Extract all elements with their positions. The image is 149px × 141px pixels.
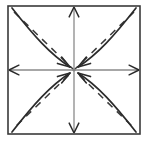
diagram-canvas bbox=[0, 0, 149, 141]
diagram-container bbox=[0, 0, 149, 141]
